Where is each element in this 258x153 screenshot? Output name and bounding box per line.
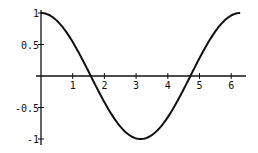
x-tick-label: 4 bbox=[165, 80, 171, 91]
axes bbox=[36, 10, 246, 145]
y-tick-label: -0.5 bbox=[15, 103, 39, 114]
x-tick-label: 1 bbox=[70, 80, 76, 91]
x-tick-label: 5 bbox=[196, 80, 202, 91]
x-tick-label: 2 bbox=[101, 80, 107, 91]
x-tick-label: 6 bbox=[228, 80, 234, 91]
y-tick-label: -1 bbox=[27, 134, 39, 145]
y-tick-label: 1 bbox=[33, 8, 39, 19]
y-tick-label: 0.5 bbox=[21, 40, 39, 51]
x-tick-label: 3 bbox=[133, 80, 139, 91]
cosine-plot: 123456 10.5-0.5-1 bbox=[0, 0, 258, 153]
